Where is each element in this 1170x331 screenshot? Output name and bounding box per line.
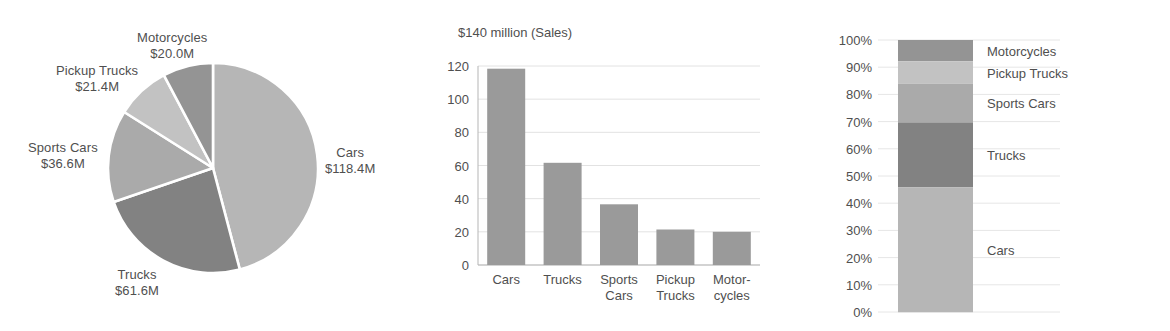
bar-x-tick-label: Cars [492, 272, 520, 287]
stacked-segment-motorcycles[interactable] [898, 40, 973, 61]
stacked-segment-label-cars: Cars [987, 243, 1015, 258]
bar-y-tick-label: 60 [455, 159, 469, 174]
bar-x-tick-label: Pickup [656, 272, 695, 287]
stacked-y-tick-label: 10% [846, 278, 872, 293]
stacked-segment-pickup-trucks[interactable] [898, 61, 973, 84]
pie-label-pickup-trucks-value: $21.4M [56, 79, 138, 95]
bar-pickup-trucks[interactable] [656, 230, 694, 266]
stacked-y-tick-label: 100% [839, 33, 873, 48]
stacked-segment-label-pickup-trucks: Pickup Trucks [987, 66, 1068, 81]
bar-x-tick-label: Motor- [713, 272, 751, 287]
bar-chart-graphic: 020406080100120CarsTrucksSportsCarsPicku… [430, 0, 830, 331]
stacked-segment-trucks[interactable] [898, 122, 973, 187]
bar-y-tick-label: 40 [455, 192, 469, 207]
stacked-y-tick-label: 70% [846, 115, 872, 130]
pie-chart-panel: Motorcycles $20.0M Pickup Trucks $21.4M … [0, 0, 430, 331]
bar-y-tick-label: 80 [455, 125, 469, 140]
bar-cars[interactable] [487, 69, 525, 265]
pie-label-pickup-trucks: Pickup Trucks $21.4M [56, 63, 138, 95]
stacked-segment-sports-cars[interactable] [898, 84, 973, 123]
bar-x-tick-label: Trucks [656, 288, 695, 303]
pie-label-sports-cars-value: $36.6M [28, 156, 98, 172]
stacked-segment-label-trucks: Trucks [987, 148, 1026, 163]
bar-sports-cars[interactable] [600, 204, 638, 265]
pie-label-cars: Cars $118.4M [325, 145, 375, 177]
bar-x-tick-label: Trucks [543, 272, 582, 287]
stacked-y-tick-label: 0% [853, 305, 872, 320]
stacked-y-tick-label: 90% [846, 60, 872, 75]
bar-y-tick-label: 20 [455, 225, 469, 240]
stacked-y-tick-label: 60% [846, 142, 872, 157]
stacked-y-tick-label: 50% [846, 169, 872, 184]
stacked-segment-cars[interactable] [898, 187, 973, 312]
stacked-segment-label-motorcycles: Motorcycles [987, 44, 1057, 59]
pie-label-cars-value: $118.4M [325, 161, 375, 177]
stacked-segment-label-sports-cars: Sports Cars [987, 96, 1056, 111]
bar-trucks[interactable] [544, 163, 582, 265]
stacked-bar-graphic: 100%90%80%70%60%50%40%30%20%10%0%Motorcy… [830, 0, 1170, 331]
pie-label-motorcycles: Motorcycles $20.0M [137, 30, 207, 62]
stacked-y-tick-label: 30% [846, 223, 872, 238]
bar-y-tick-label: 0 [462, 258, 469, 273]
pie-label-motorcycles-name: Motorcycles [137, 30, 207, 45]
bar-y-tick-label: 100 [447, 92, 469, 107]
bar-chart-panel: $140 million (Sales) 020406080100120Cars… [430, 0, 830, 331]
stacked-y-tick-label: 20% [846, 251, 872, 266]
bar-x-tick-label: Cars [605, 288, 633, 303]
pie-label-motorcycles-value: $20.0M [137, 46, 207, 62]
pie-label-sports-cars: Sports Cars $36.6M [28, 140, 98, 172]
stacked-y-tick-label: 40% [846, 196, 872, 211]
pie-label-trucks: Trucks $61.6M [115, 267, 159, 299]
pie-label-trucks-value: $61.6M [115, 283, 159, 299]
pie-label-sports-cars-name: Sports Cars [28, 140, 98, 155]
pie-label-cars-name: Cars [336, 145, 364, 160]
bar-x-tick-label: cycles [714, 288, 751, 303]
bar-y-tick-label: 120 [447, 59, 469, 74]
stacked-bar-panel: 100%90%80%70%60%50%40%30%20%10%0%Motorcy… [830, 0, 1170, 331]
pie-label-pickup-trucks-name: Pickup Trucks [56, 63, 138, 78]
pie-label-trucks-name: Trucks [117, 267, 156, 282]
bar-motorcycles[interactable] [713, 232, 751, 265]
stacked-y-tick-label: 80% [846, 87, 872, 102]
bar-x-tick-label: Sports [600, 272, 638, 287]
